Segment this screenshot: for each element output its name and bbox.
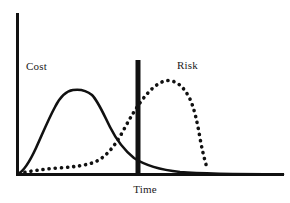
cost-series-label: Cost: [26, 60, 47, 72]
cost-curve: [18, 90, 283, 175]
risk-curve: [19, 81, 207, 174]
figure-container: Cost Risk Time: [0, 0, 290, 203]
risk-series-label: Risk: [177, 59, 198, 71]
x-axis-label: Time: [0, 183, 290, 195]
cost-risk-over-time-chart: [0, 0, 290, 203]
